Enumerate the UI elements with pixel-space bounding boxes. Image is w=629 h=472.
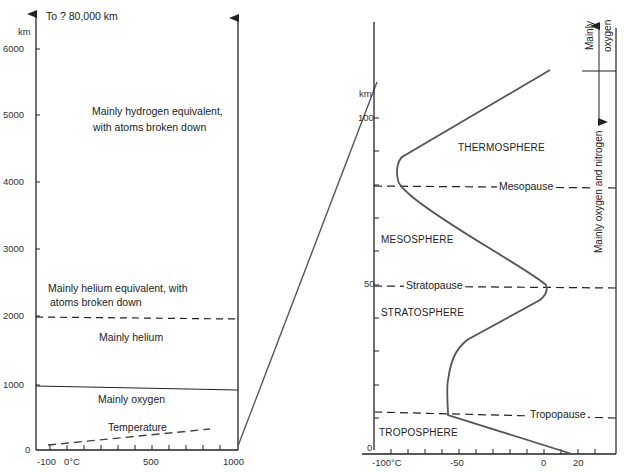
oxygen-region-label: Mainly oxygen [98,393,165,406]
hydrogen-region-label-2: with atoms broken down [93,121,206,134]
y-tick-1000: 1000 [3,379,24,391]
helium-equivalent-boundary [36,317,238,319]
troposphere-label: TROPOSPHERE [379,427,458,440]
mesosphere-label: MESOSPHERE [381,234,454,247]
helium-equivalent-label-2: atoms broken down [50,296,142,309]
atmosphere-diagram [0,0,629,472]
y-tick-4000: 4000 [3,176,24,188]
right-y-axis-unit: km [359,88,372,100]
composition-upper-label-2: oxygen [602,20,613,52]
x-tick-minus100c: -100°C [372,457,402,469]
temperature-label: Temperature [108,421,167,434]
y-tick-0-right: 0 [367,442,372,454]
y-tick-6000: 6000 [3,43,24,55]
mesopause-label: Mesopause [497,180,555,193]
composition-upper-label-1: Mainly [584,21,595,50]
tropopause-label: Tropopause [528,408,588,421]
oxygen-helium-boundary [36,386,238,390]
y-tick-5000: 5000 [3,109,24,121]
helium-region-label: Mainly helium [99,331,163,344]
x-tick-500: 500 [143,456,159,468]
composition-lower-label: Mainly oxygen and nitrogen [593,129,604,255]
y-tick-2000: 2000 [3,310,24,322]
x-tick-minus100: -100 [37,456,56,468]
x-tick-1000: 1000 [223,456,244,468]
stratopause-label: Stratopause [404,279,465,292]
x-tick-0-right: 0 [541,457,546,469]
scale-link-line [238,82,377,446]
mesopause-line [374,186,616,188]
y-tick-50: 50 [364,278,375,290]
top-note-label: To ? 80,000 km [46,10,118,23]
middle-panel [238,18,377,450]
left-panel [36,14,238,450]
stratosphere-label: STRATOSPHERE [381,307,464,320]
left-y-axis-unit: km [18,26,31,38]
y-tick-100: 100 [358,112,374,124]
x-tick-20: 20 [573,457,584,469]
y-tick-0: 0 [25,444,30,456]
x-tick-minus50: -50 [450,457,464,469]
hydrogen-region-label-1: Mainly hydrogen equivalent, [92,105,223,118]
thermosphere-label: THERMOSPHERE [458,142,545,155]
y-tick-3000: 3000 [3,243,24,255]
x-tick-0c: 0°C [64,456,80,468]
helium-equivalent-label-1: Mainly helium equivalent, with [48,282,187,295]
temperature-profile-curve [397,70,572,454]
